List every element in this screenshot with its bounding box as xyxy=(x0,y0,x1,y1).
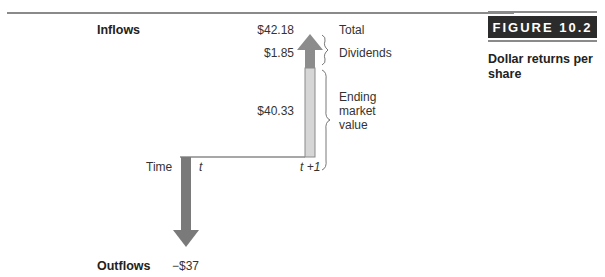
ending-market-value-value: $40.33 xyxy=(230,104,294,118)
t0-label: t xyxy=(199,160,202,174)
total-value: $42.18 xyxy=(230,23,294,37)
dividends-value: $1.85 xyxy=(230,46,294,60)
ending-market-value-line1: Ending xyxy=(339,90,376,104)
outflow-arrow xyxy=(173,157,199,247)
outflow-value: −$37 xyxy=(172,259,199,273)
inflow-arrow xyxy=(297,34,323,157)
dividends-annotation: Dividends xyxy=(339,46,392,60)
outflows-label: Outflows xyxy=(97,259,150,273)
ending-market-value-line3: value xyxy=(339,118,376,132)
ending-market-value-line2: market xyxy=(339,104,376,118)
market-value-segment xyxy=(305,68,315,157)
time-label: Time xyxy=(146,160,172,174)
t1-label: t +1 xyxy=(300,160,320,174)
inflows-label: Inflows xyxy=(97,23,140,37)
total-annotation: Total xyxy=(339,23,364,37)
market-value-brace xyxy=(322,70,330,170)
ending-market-value-annotation: Ending market value xyxy=(339,90,376,132)
cash-flow-diagram xyxy=(0,0,605,277)
dividend-segment xyxy=(305,50,315,68)
